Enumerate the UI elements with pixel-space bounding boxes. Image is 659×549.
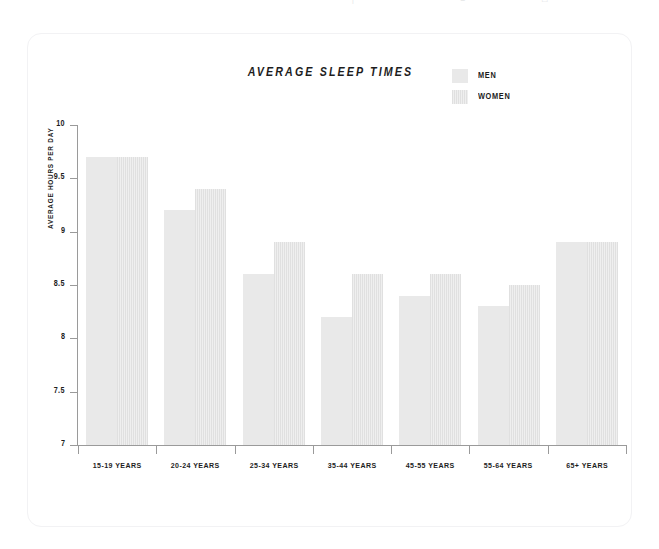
clipped-fragment: □ (542, 0, 548, 4)
bar-group (86, 125, 148, 445)
bar-women[interactable] (117, 157, 148, 445)
x-axis-category-label: 20-24 YEARS (161, 461, 230, 470)
x-axis-category-label: 55-64 YEARS (474, 461, 543, 470)
y-axis-tick-label: 9 (61, 225, 65, 235)
x-axis-category-label: 45-55 YEARS (396, 461, 465, 470)
legend-label-men: MEN (478, 70, 496, 80)
plot-area: 77.588.599.510 15-19 YEARS20-24 YEARS25-… (78, 125, 626, 445)
bar-group (556, 125, 618, 445)
clipped-page-header: | ≡ □ (0, 0, 659, 10)
x-axis-tick (391, 445, 392, 454)
legend-label-women: WOMEN (478, 91, 510, 101)
y-axis-tick: 9.5 (70, 178, 77, 179)
bar-women[interactable] (509, 285, 540, 445)
bar-men[interactable] (243, 274, 274, 445)
bar-men[interactable] (321, 317, 352, 445)
x-axis-category-label: 65+ YEARS (552, 461, 621, 470)
bar-men[interactable] (399, 296, 430, 445)
y-axis-line (77, 125, 78, 446)
y-axis-tick-label: 8.5 (54, 278, 65, 288)
bar-women[interactable] (430, 274, 461, 445)
clipped-fragment: ≡ (460, 0, 466, 4)
legend-swatch-men-icon (452, 69, 468, 83)
x-axis-tick (626, 445, 627, 454)
bar-group (399, 125, 461, 445)
x-axis-tick (78, 445, 79, 454)
clipped-fragment: | (352, 0, 354, 4)
bar-women[interactable] (195, 189, 226, 445)
y-axis-tick: 9 (70, 232, 77, 233)
x-axis-tick (548, 445, 549, 454)
bar-women[interactable] (274, 242, 305, 445)
chart-card: AVERAGE SLEEP TIMES AVERAGE HOURS PER DA… (27, 33, 632, 527)
y-axis-tick-label: 7.5 (54, 385, 65, 395)
x-axis-category-label: 25-34 YEARS (239, 461, 308, 470)
x-axis-tick (469, 445, 470, 454)
x-axis-tick (313, 445, 314, 454)
chart-title: AVERAGE SLEEP TIMES (82, 64, 578, 79)
bar-men[interactable] (86, 157, 117, 445)
bar-men[interactable] (556, 242, 587, 445)
x-axis-category-label: 35-44 YEARS (318, 461, 387, 470)
y-axis-tick-label: 7 (61, 438, 65, 448)
y-axis-tick-label: 8 (61, 331, 65, 341)
bar-women[interactable] (352, 274, 383, 445)
x-axis-tick (156, 445, 157, 454)
y-axis-tick: 10 (70, 125, 77, 126)
y-axis-tick: 7.5 (70, 392, 77, 393)
legend-swatch-women-icon (452, 90, 468, 104)
y-axis-tick: 8 (70, 338, 77, 339)
bar-men[interactable] (164, 210, 195, 445)
y-axis-tick-label: 9.5 (54, 171, 65, 181)
bar-men[interactable] (478, 306, 509, 445)
y-axis-tick: 8.5 (70, 285, 77, 286)
y-axis-tick-label: 10 (56, 118, 65, 128)
y-axis-tick: 7 (70, 445, 77, 446)
x-axis-line (77, 445, 627, 446)
bar-group (478, 125, 540, 445)
bar-women[interactable] (587, 242, 618, 445)
x-axis-tick (235, 445, 236, 454)
bar-group (321, 125, 383, 445)
bar-group (243, 125, 305, 445)
x-axis-category-label: 15-19 YEARS (83, 461, 152, 470)
bar-group (164, 125, 226, 445)
